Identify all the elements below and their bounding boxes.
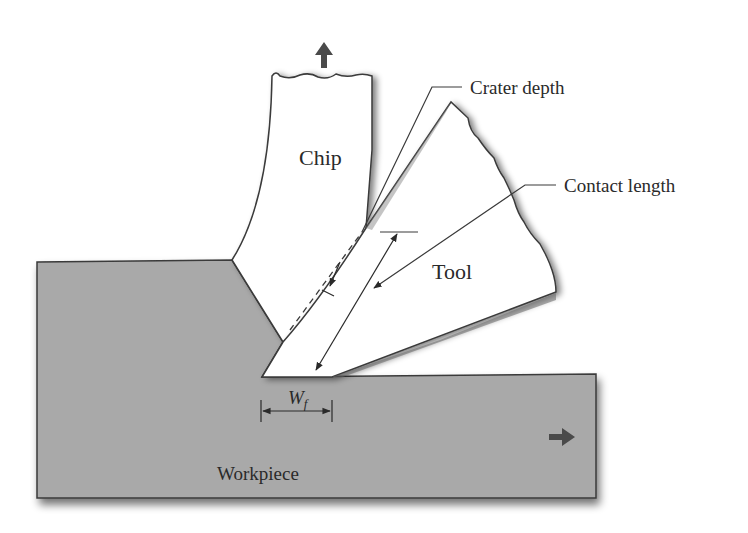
workpiece-label: Workpiece [217, 463, 299, 484]
crater-depth-label: Crater depth [470, 77, 565, 98]
chip-label: Chip [299, 145, 342, 170]
chip-formation-diagram: Crater depth Contact length Wf Chip Tool… [0, 0, 748, 533]
chip-direction-arrow-icon [315, 42, 333, 68]
contact-length-label: Contact length [564, 175, 676, 196]
tool-label: Tool [432, 259, 472, 284]
